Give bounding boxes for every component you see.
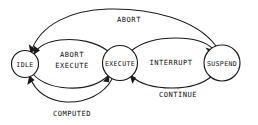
edge-label-computed: COMPUTED [53, 109, 91, 118]
edge-idle-to-execute-path [33, 74, 108, 88]
state-node-suspend[interactable]: SUSPEND [204, 45, 240, 81]
state-node-idle[interactable]: IDLE [12, 51, 39, 78]
edge-idle-to-execute [33, 74, 110, 88]
state-diagram-canvas: ABORT ABORT EXECUTE COMPUTED INTERRUPT [0, 0, 258, 125]
edge-abort-execute: ABORT EXECUTE [34, 39, 108, 69]
edge-label-abort-execute-line1: ABORT [60, 50, 84, 59]
state-diagram-container: ABORT ABORT EXECUTE COMPUTED INTERRUPT [0, 0, 258, 125]
edge-continue-path [131, 76, 212, 88]
state-label-execute: EXECUTE [105, 60, 135, 68]
edge-label-continue: CONTINUE [159, 90, 197, 99]
edge-label-abort-execute-line2: EXECUTE [55, 61, 88, 70]
state-label-idle: IDLE [16, 61, 33, 69]
edge-label-interrupt: INTERRUPT [150, 58, 193, 67]
edge-computed-path [30, 77, 112, 102]
edge-interrupt: INTERRUPT [131, 38, 215, 67]
edge-continue: CONTINUE [130, 75, 212, 99]
edge-label-abort: ABORT [117, 15, 141, 24]
state-label-suspend: SUSPEND [207, 60, 237, 68]
state-node-execute[interactable]: EXECUTE [103, 46, 138, 81]
edge-interrupt-path [131, 38, 213, 51]
edge-abort-execute-arrowhead [34, 45, 40, 54]
